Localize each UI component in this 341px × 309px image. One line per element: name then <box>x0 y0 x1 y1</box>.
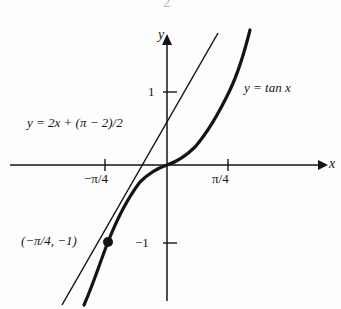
plot-canvas <box>0 0 341 309</box>
tan-curve-label: y = tan x <box>244 81 291 94</box>
x-axis-label: x <box>329 157 335 171</box>
page-number-artifact: 2 <box>163 0 171 10</box>
tangent-line-equation-label: y = 2x + (π − 2)/2 <box>27 116 123 129</box>
tangency-point-marker <box>103 237 113 247</box>
x-tick-label-pi-over-4: π/4 <box>212 172 229 185</box>
y-tick-label-negative-one: −1 <box>135 236 149 249</box>
y-tick-label-one: 1 <box>148 85 155 98</box>
tangent-line-curve <box>62 33 218 305</box>
y-axis-label: y <box>158 28 164 42</box>
tangency-point-label: (−π/4, −1) <box>21 234 77 247</box>
x-axis-arrowhead <box>318 160 328 170</box>
tangent-line-figure: 2 y x −π/4 π/4 1 −1 y = tan x y = 2x + (… <box>0 0 341 309</box>
x-tick-label-neg-pi-over-4: −π/4 <box>84 172 108 185</box>
